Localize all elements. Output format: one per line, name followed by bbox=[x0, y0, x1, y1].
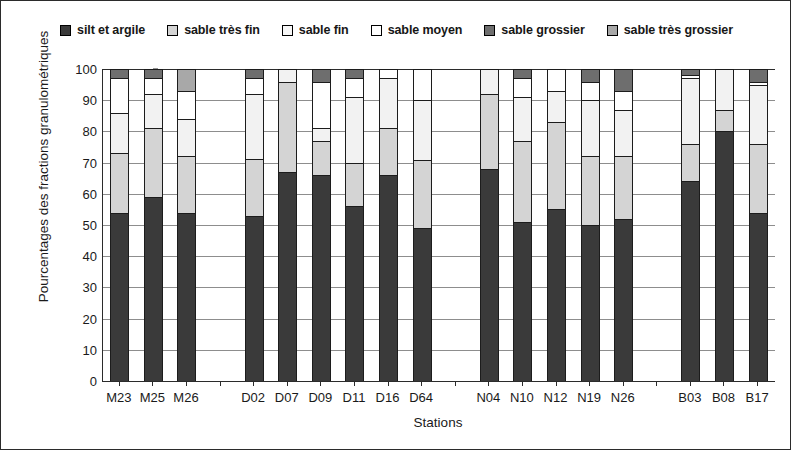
legend-item[interactable]: sable moyen bbox=[371, 23, 463, 37]
bar-segment[interactable] bbox=[715, 131, 734, 381]
bar-segment[interactable] bbox=[513, 78, 532, 97]
bar-segment[interactable] bbox=[547, 122, 566, 209]
bar-segment[interactable] bbox=[312, 82, 331, 129]
bar-segment[interactable] bbox=[614, 219, 633, 381]
bar-segment[interactable] bbox=[144, 78, 163, 94]
bar-segment[interactable] bbox=[278, 172, 297, 381]
stacked-bar[interactable] bbox=[413, 69, 432, 381]
bar-segment[interactable] bbox=[144, 197, 163, 381]
bar-segment[interactable] bbox=[547, 91, 566, 122]
bar-segment[interactable] bbox=[614, 110, 633, 157]
bar-segment[interactable] bbox=[581, 100, 600, 156]
bar-segment[interactable] bbox=[177, 91, 196, 119]
bar-segment[interactable] bbox=[379, 175, 398, 381]
bar-segment[interactable] bbox=[245, 94, 264, 160]
stacked-bar[interactable] bbox=[681, 69, 700, 381]
stacked-bar[interactable] bbox=[177, 69, 196, 381]
bar-segment[interactable] bbox=[110, 153, 129, 212]
legend-item[interactable]: silt et argile bbox=[60, 23, 145, 37]
bar-segment[interactable] bbox=[278, 69, 297, 81]
bar-segment[interactable] bbox=[144, 128, 163, 197]
bar-segment[interactable] bbox=[547, 209, 566, 381]
bar-segment[interactable] bbox=[110, 113, 129, 154]
bar-segment[interactable] bbox=[681, 144, 700, 181]
bar-segment[interactable] bbox=[715, 110, 734, 132]
stacked-bar[interactable] bbox=[144, 69, 163, 381]
bar-segment[interactable] bbox=[345, 163, 364, 207]
bar-segment[interactable] bbox=[749, 85, 768, 144]
bar-segment[interactable] bbox=[110, 69, 129, 78]
bar-segment[interactable] bbox=[177, 69, 196, 91]
bar-segment[interactable] bbox=[681, 78, 700, 144]
bar-segment[interactable] bbox=[312, 141, 331, 175]
bar-segment[interactable] bbox=[749, 144, 768, 213]
bar-segment[interactable] bbox=[513, 141, 532, 222]
stacked-bar[interactable] bbox=[614, 69, 633, 381]
legend-item[interactable]: sable très grossier bbox=[607, 23, 733, 37]
bar-segment[interactable] bbox=[245, 159, 264, 215]
bar-segment[interactable] bbox=[480, 94, 499, 169]
bar-segment[interactable] bbox=[749, 69, 768, 81]
bar-segment[interactable] bbox=[413, 100, 432, 159]
bar-segment[interactable] bbox=[581, 69, 600, 81]
bar-segment[interactable] bbox=[379, 78, 398, 128]
y-axis-tick-label: 0 bbox=[57, 374, 97, 389]
bar-segment[interactable] bbox=[110, 78, 129, 112]
legend-swatch-icon bbox=[371, 25, 382, 36]
bar-segment[interactable] bbox=[345, 69, 364, 78]
stacked-bar[interactable] bbox=[345, 69, 364, 381]
bar-segment[interactable] bbox=[245, 78, 264, 94]
bar-segment[interactable] bbox=[110, 213, 129, 381]
bar-segment[interactable] bbox=[245, 216, 264, 381]
legend-item[interactable]: sable grossier bbox=[484, 23, 584, 37]
stacked-bar[interactable] bbox=[480, 69, 499, 381]
bar-segment[interactable] bbox=[513, 97, 532, 141]
bar-segment[interactable] bbox=[581, 82, 600, 101]
stacked-bar[interactable] bbox=[278, 69, 297, 381]
stacked-bar[interactable] bbox=[513, 69, 532, 381]
bar-segment[interactable] bbox=[581, 156, 600, 225]
stacked-bar[interactable] bbox=[110, 69, 129, 381]
bar-segment[interactable] bbox=[144, 69, 163, 78]
stacked-bar[interactable] bbox=[312, 69, 331, 381]
bar-segment[interactable] bbox=[177, 213, 196, 381]
bar-segment[interactable] bbox=[715, 69, 734, 110]
bar-segment[interactable] bbox=[177, 156, 196, 212]
bar-segment[interactable] bbox=[413, 69, 432, 100]
bar-segment[interactable] bbox=[345, 97, 364, 163]
legend-item[interactable]: sable très fin bbox=[167, 23, 260, 37]
bar-segment[interactable] bbox=[379, 69, 398, 78]
stacked-bar[interactable] bbox=[245, 69, 264, 381]
bar-segment[interactable] bbox=[480, 169, 499, 381]
bar-segment[interactable] bbox=[413, 160, 432, 229]
bar-segment[interactable] bbox=[312, 69, 331, 81]
bar-segment[interactable] bbox=[413, 228, 432, 381]
stacked-bar[interactable] bbox=[749, 69, 768, 381]
bar-segment[interactable] bbox=[614, 91, 633, 110]
bar-segment[interactable] bbox=[749, 213, 768, 381]
legend-item[interactable]: sable fin bbox=[282, 23, 349, 37]
bar-segment[interactable] bbox=[278, 82, 297, 172]
bar-segment[interactable] bbox=[245, 69, 264, 78]
bar-segment[interactable] bbox=[547, 69, 566, 91]
stacked-bar[interactable] bbox=[547, 69, 566, 381]
bar-segment[interactable] bbox=[177, 119, 196, 156]
bar-segment[interactable] bbox=[513, 69, 532, 78]
bar-segment[interactable] bbox=[345, 206, 364, 381]
bar-segment[interactable] bbox=[614, 156, 633, 218]
bar-segment[interactable] bbox=[614, 69, 633, 91]
stacked-bar[interactable] bbox=[581, 69, 600, 381]
bar-segment[interactable] bbox=[345, 78, 364, 97]
bar-segment[interactable] bbox=[581, 225, 600, 381]
bar-segment[interactable] bbox=[513, 222, 532, 381]
bar-segment[interactable] bbox=[144, 94, 163, 128]
x-axis-tick-mark bbox=[119, 381, 120, 386]
bar-segment[interactable] bbox=[379, 128, 398, 175]
stacked-bar[interactable] bbox=[379, 69, 398, 381]
bar-segment[interactable] bbox=[312, 128, 331, 140]
bar-segment[interactable] bbox=[480, 69, 499, 94]
stacked-bar[interactable] bbox=[715, 69, 734, 381]
bar-segment[interactable] bbox=[312, 175, 331, 381]
bar-segment[interactable] bbox=[681, 181, 700, 381]
x-axis-tick-label: D02 bbox=[236, 390, 270, 405]
